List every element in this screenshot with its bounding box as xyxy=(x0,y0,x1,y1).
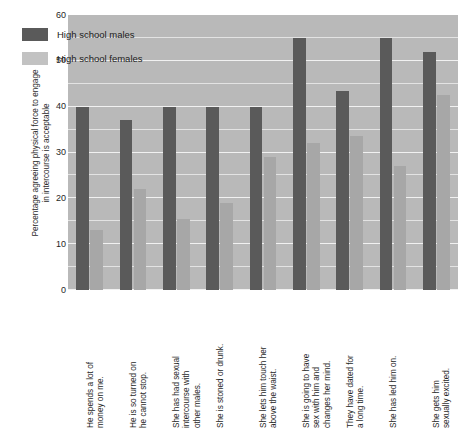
bar-females-0 xyxy=(90,230,103,290)
bar-females-7 xyxy=(394,166,407,290)
legend-swatch-males-icon xyxy=(22,28,48,41)
bar-males-5 xyxy=(293,38,306,290)
gridline-major xyxy=(68,106,458,107)
chart-legend: High school males High school females xyxy=(22,24,212,72)
bar-males-8 xyxy=(423,52,436,290)
x-category-label-5: She is going to havesex with him andchan… xyxy=(302,296,316,428)
bar-females-5 xyxy=(307,143,320,290)
gridline-minor xyxy=(68,83,458,84)
legend-label-females: High school females xyxy=(57,53,143,64)
bar-females-4 xyxy=(264,157,277,290)
y-tick-label: 60 xyxy=(56,11,66,20)
x-category-label-4: She lets him touch herabove the waist. xyxy=(259,296,273,428)
x-category-label-0: He spends a lot ofmoney on me. xyxy=(86,296,100,428)
x-label-line: sexually excited. xyxy=(443,296,453,428)
x-label-line: They have dated for xyxy=(346,296,356,428)
x-label-line: sex with him and xyxy=(313,296,323,428)
bar-males-1 xyxy=(120,120,133,290)
x-axis-category-labels: He spends a lot ofmoney on me.He is so t… xyxy=(68,292,458,428)
y-tick-label: 30 xyxy=(56,148,66,157)
x-category-label-7: She has led him on. xyxy=(389,296,403,428)
bar-males-3 xyxy=(206,107,219,290)
y-tick-label: 0 xyxy=(61,286,66,295)
x-label-line: changes her mind. xyxy=(323,296,333,428)
x-label-line: She is going to have xyxy=(302,296,312,428)
y-tick-label: 40 xyxy=(56,102,66,111)
x-category-label-1: He is so turned onhe cannot stop. xyxy=(129,296,143,428)
y-tick-label: 10 xyxy=(56,240,66,249)
x-label-line: She has led him on. xyxy=(389,296,399,428)
x-category-label-8: She gets himsexually excited. xyxy=(432,296,446,428)
bar-males-2 xyxy=(163,107,176,290)
x-label-line: a long time. xyxy=(356,296,366,428)
bar-females-6 xyxy=(350,136,363,290)
bar-females-2 xyxy=(177,219,190,290)
legend-swatch-females-icon xyxy=(22,52,48,65)
x-label-line: above the waist. xyxy=(269,296,279,428)
x-label-line: She gets him xyxy=(432,296,442,428)
bar-males-0 xyxy=(76,107,89,290)
x-label-line: other males. xyxy=(193,296,203,428)
x-label-line: She lets him touch her xyxy=(259,296,269,428)
bar-females-8 xyxy=(437,95,450,290)
x-label-line: She is stoned or drunk. xyxy=(216,296,226,428)
x-label-line: He spends a lot of xyxy=(86,296,96,428)
bar-females-1 xyxy=(134,189,147,290)
legend-item-males: High school males xyxy=(22,24,212,45)
x-label-line: he cannot stop. xyxy=(139,296,149,428)
x-label-line: He is so turned on xyxy=(129,296,139,428)
legend-item-females: High school females xyxy=(22,48,212,69)
x-category-label-3: She is stoned or drunk. xyxy=(216,296,230,428)
x-label-line: money on me. xyxy=(96,296,106,428)
x-label-line: She has had sexual xyxy=(172,296,182,428)
x-category-label-2: She has had sexualintercourse withother … xyxy=(172,296,186,428)
bar-males-7 xyxy=(380,38,393,290)
bar-males-6 xyxy=(336,91,349,290)
bar-females-3 xyxy=(220,203,233,290)
y-tick-label: 20 xyxy=(56,194,66,203)
x-label-line: intercourse with xyxy=(183,296,193,428)
bar-chart-figure: Percentage agreeing physical force to en… xyxy=(0,0,472,428)
x-category-label-6: They have dated fora long time. xyxy=(346,296,360,428)
legend-label-males: High school males xyxy=(57,29,135,40)
bar-males-4 xyxy=(250,107,263,290)
